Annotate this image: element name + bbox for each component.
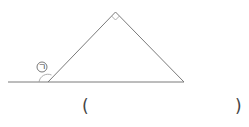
- right-angle-marker: [112, 16, 120, 20]
- angle-label: ㄱ: [38, 62, 46, 72]
- answer-close-paren: ): [235, 96, 242, 116]
- triangle-right-side: [116, 12, 185, 82]
- angle-label-circle: ㄱ: [37, 62, 47, 72]
- answer-open-paren: (: [82, 96, 89, 116]
- answer-blank[interactable]: [95, 98, 230, 118]
- triangle-left-side: [48, 12, 116, 82]
